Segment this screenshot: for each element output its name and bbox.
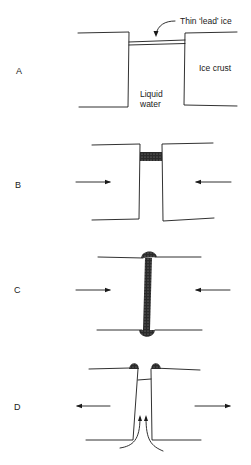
arrowhead-icon bbox=[138, 415, 142, 421]
upwelling-arrow-right bbox=[146, 418, 163, 451]
ridge-remnant-left bbox=[129, 363, 139, 369]
liquid-water-label-2: water bbox=[139, 99, 161, 109]
panel-b: B bbox=[15, 143, 231, 221]
frozen-plug bbox=[140, 152, 162, 161]
pressure-ridge-top bbox=[141, 251, 157, 258]
arrowhead-icon bbox=[154, 31, 159, 37]
ice-crust-left bbox=[78, 32, 129, 107]
panel-c: C bbox=[14, 251, 230, 336]
panel-label-b: B bbox=[15, 180, 21, 190]
ice-crust-label: Ice crust bbox=[199, 63, 232, 73]
panel-label-a: A bbox=[16, 66, 22, 76]
panel-d: D bbox=[14, 363, 230, 451]
lead-ice-diagram: A Thin ‘lead’ ice Ice crust Liquid water… bbox=[0, 0, 251, 465]
ice-top-surface bbox=[89, 368, 200, 370]
liquid-water-label-1: Liquid bbox=[140, 89, 163, 99]
panel-a: A Thin ‘lead’ ice Ice crust Liquid water bbox=[16, 16, 237, 109]
water-surface bbox=[138, 379, 151, 380]
panel-label-d: D bbox=[14, 402, 21, 412]
thin-lead-ice bbox=[129, 40, 185, 45]
consolidated-ridge bbox=[143, 258, 152, 330]
pressure-keel-bottom bbox=[139, 330, 155, 337]
lead-ice-label: Thin ‘lead’ ice bbox=[180, 16, 232, 26]
ridge-remnant-right bbox=[151, 363, 161, 369]
arrowhead-icon bbox=[144, 415, 148, 421]
panel-label-c: C bbox=[14, 285, 21, 295]
pointer-arrow bbox=[156, 21, 175, 34]
upwelling-arrow-left bbox=[120, 418, 140, 448]
